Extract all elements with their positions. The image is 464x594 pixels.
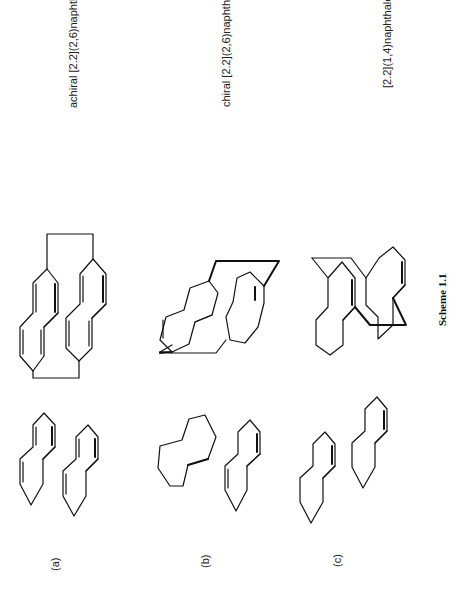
structure-b-monomers — [158, 415, 260, 511]
structure-c-phane — [312, 247, 406, 355]
structure-c-monomers — [300, 397, 387, 523]
structure-b-phane — [160, 261, 279, 353]
row-label-b: (b) — [199, 555, 211, 568]
compound-name-a: achiral [2.2](2,6)naphthalenophane — [67, 0, 79, 108]
row-label-c: (c) — [331, 554, 343, 567]
structure-a-monomers — [20, 413, 98, 516]
structure-a-phane — [20, 234, 106, 378]
compound-name-c: [2.2](1,4)naphthalenophane — [381, 0, 393, 88]
row-label-a: (a) — [49, 558, 61, 571]
scheme-caption: Scheme 1.1 — [436, 273, 448, 326]
scheme-page: achiral [2.2](2,6)naphthalenophane chira… — [0, 0, 464, 594]
compound-name-b: chiral [2.2](2,6)naphthalenophane — [220, 0, 232, 107]
